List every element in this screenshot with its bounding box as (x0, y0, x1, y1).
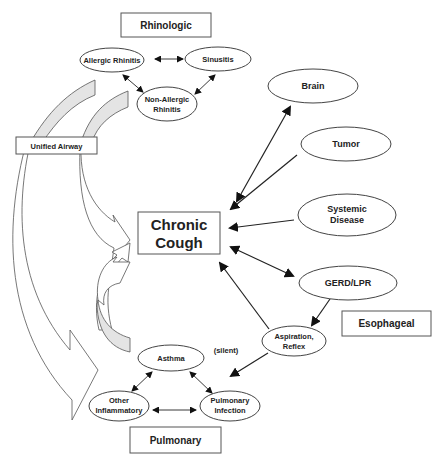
arrow-brain-cough (237, 107, 290, 201)
silent-annotation: (silent) (214, 346, 239, 355)
rhinologic-box: Rhinologic (121, 13, 211, 37)
esophageal-box: Esophageal (342, 311, 431, 336)
chronic-cough-line1: Chronic (151, 216, 208, 233)
svg-text:Tumor: Tumor (332, 139, 360, 149)
arrow-allergic-nonallergic (123, 75, 143, 92)
svg-text:Rhinitis: Rhinitis (153, 105, 181, 114)
rhinologic-label: Rhinologic (140, 20, 192, 31)
svg-text:Reflex: Reflex (283, 342, 306, 351)
arrow-tumor-cough (231, 155, 297, 209)
arrow-gerd-aspiration (312, 299, 330, 325)
arrow-aspiration-pulmonary (231, 353, 268, 376)
svg-text:Non-Allergic: Non-Allergic (145, 95, 190, 104)
unified-airway-box: Unified Airway (16, 137, 97, 154)
arrow-systemic-cough (230, 220, 294, 228)
node-pulmonary-infection: Pulmonary Infection (200, 391, 260, 421)
node-systemic-disease: Systemic Disease (298, 194, 396, 236)
pulmonary-box: Pulmonary (130, 427, 221, 453)
arrow-aspiration-cough (220, 263, 269, 329)
chronic-cough-line2: Cough (155, 234, 202, 251)
arrow-cough-gerd (231, 247, 293, 276)
svg-text:Infection: Infection (214, 406, 246, 415)
pulmonary-label: Pulmonary (150, 435, 202, 446)
svg-text:Aspiration,: Aspiration, (274, 332, 313, 341)
node-aspiration-reflex: Aspiration, Reflex (262, 326, 326, 356)
arrow-sinusitis-nonallergic (195, 75, 215, 94)
svg-text:Other: Other (109, 396, 129, 405)
svg-text:Inflammatory: Inflammatory (95, 406, 143, 415)
node-allergic-rhinitis: Allergic Rhinitis (80, 48, 144, 72)
unified-airway-inner-arrow-top (80, 91, 130, 262)
esophageal-label: Esophageal (358, 318, 414, 329)
node-other-inflammatory: Other Inflammatory (89, 391, 149, 421)
chronic-cough-diagram: Rhinologic Unified Airway Esophageal Pul… (0, 0, 444, 460)
svg-text:Brain: Brain (301, 81, 324, 91)
svg-text:Sinusitis: Sinusitis (202, 55, 233, 64)
node-asthma: Asthma (138, 345, 204, 371)
arrow-asthma-infection (190, 372, 212, 393)
node-brain: Brain (268, 69, 358, 103)
node-non-allergic-rhinitis: Non-Allergic Rhinitis (137, 87, 197, 121)
svg-text:Systemic: Systemic (327, 204, 367, 214)
node-gerd-lpr: GERD/LPR (299, 266, 397, 300)
svg-text:Disease: Disease (330, 215, 364, 225)
unified-airway-label: Unified Airway (31, 142, 84, 151)
chronic-cough-box: Chronic Cough (138, 212, 220, 254)
pulmonary-upward-arrow (96, 243, 130, 352)
svg-text:GERD/LPR: GERD/LPR (325, 278, 372, 288)
node-tumor: Tumor (301, 127, 391, 161)
svg-text:Asthma: Asthma (157, 354, 185, 363)
svg-text:Pulmonary: Pulmonary (211, 396, 251, 405)
node-sinusitis: Sinusitis (185, 47, 251, 71)
arrow-asthma-other (132, 372, 152, 391)
svg-text:Allergic Rhinitis: Allergic Rhinitis (83, 56, 140, 65)
